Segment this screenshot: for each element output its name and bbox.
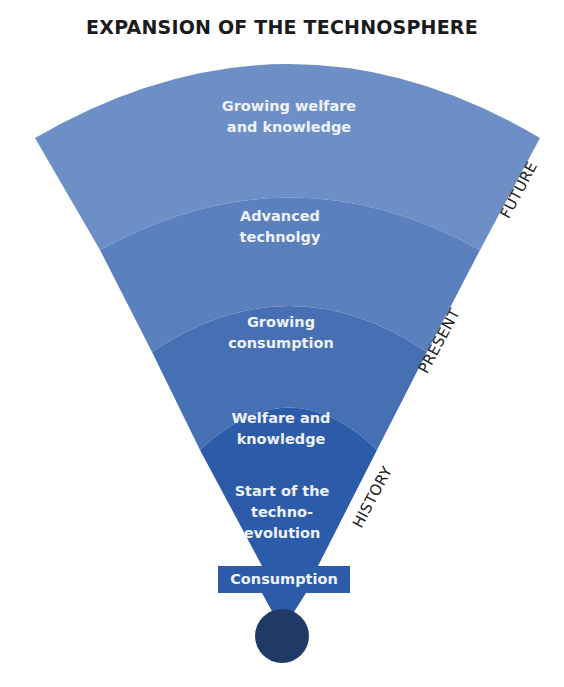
consumption-label: Consumption <box>218 566 350 593</box>
band-label-line: Growing <box>228 312 334 333</box>
band-label-line: Start of the <box>235 481 330 502</box>
band-label-line: evolution <box>235 523 330 544</box>
band-label-line: Welfare and <box>232 408 331 429</box>
band-label-line: technolgy <box>240 227 321 248</box>
band-label-growing-consumption: Growing consumption <box>228 312 334 354</box>
base-circle <box>255 609 309 663</box>
band-label-welfare-knowledge: Welfare and knowledge <box>232 408 331 450</box>
band-label-line: techno- <box>235 502 330 523</box>
band-label-line: Growing welfare <box>222 96 356 117</box>
band-label-growing-welfare: Growing welfare and knowledge <box>222 96 356 138</box>
band-label-line: Advanced <box>240 206 321 227</box>
band-label-start-techno-evolution: Start of the techno- evolution <box>235 481 330 544</box>
band-label-line: knowledge <box>232 429 331 450</box>
band-label-line: consumption <box>228 333 334 354</box>
band-label-advanced-technology: Advanced technolgy <box>240 206 321 248</box>
band-label-line: and knowledge <box>222 117 356 138</box>
